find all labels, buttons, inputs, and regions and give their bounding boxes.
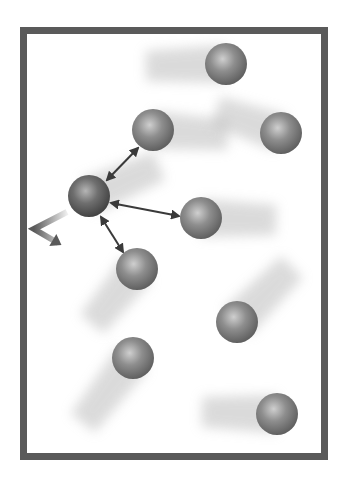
molecule-sphere <box>132 109 174 151</box>
molecule-sphere <box>180 197 222 239</box>
container-wall <box>24 31 325 457</box>
molecule-sphere <box>216 301 258 343</box>
gas-molecules-diagram <box>0 0 343 477</box>
molecule-sphere <box>112 337 154 379</box>
molecule-sphere <box>260 112 302 154</box>
highlighted-molecule-sphere <box>68 175 110 217</box>
molecule-sphere <box>256 393 298 435</box>
molecule-sphere <box>205 43 247 85</box>
molecule-sphere <box>116 248 158 290</box>
